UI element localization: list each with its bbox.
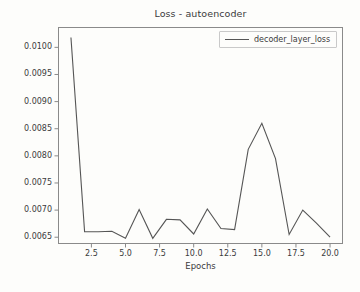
- y-tick-label: 0.0100: [4, 42, 52, 51]
- y-tick-label: 0.0080: [4, 151, 52, 160]
- axis-ticks: [55, 47, 331, 247]
- chart-legend: decoder_layer_loss: [219, 31, 337, 48]
- y-tick-label: 0.0065: [4, 232, 52, 241]
- legend-label: decoder_layer_loss: [254, 35, 330, 44]
- chart-figure: Loss - autoencoder 0.00650.00700.00750.0…: [0, 0, 360, 292]
- y-tick-label: 0.0095: [4, 69, 52, 78]
- y-tick-label: 0.0075: [4, 178, 52, 187]
- data-series-decoder-layer-loss: [71, 38, 330, 239]
- y-tick-label: 0.0090: [4, 97, 52, 106]
- y-tick-label: 0.0070: [4, 205, 52, 214]
- y-tick-label: 0.0085: [4, 124, 52, 133]
- x-axis-label: Epochs: [58, 261, 343, 271]
- x-tick-label: 20.0: [310, 249, 350, 258]
- legend-line-swatch: [225, 39, 249, 40]
